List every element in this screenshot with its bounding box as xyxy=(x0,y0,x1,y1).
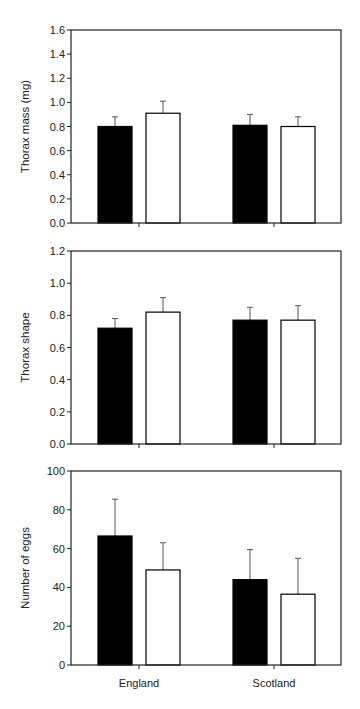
y-tick-label: 0.2 xyxy=(50,406,65,418)
y-axis-title: Thorax shape xyxy=(19,312,31,382)
y-tick-label: 1.0 xyxy=(50,96,65,108)
y-tick-label: 1.2 xyxy=(50,245,65,257)
y-tick-label: 1.2 xyxy=(50,72,65,84)
y-tick-label: 60 xyxy=(53,543,65,555)
y-axis-title: Number of eggs xyxy=(19,527,31,609)
y-tick-label: 1.4 xyxy=(50,48,65,60)
chart-panel-3: 020406080100Number of eggsEnglandScotlan… xyxy=(19,465,341,689)
y-tick-label: 0.2 xyxy=(50,193,65,205)
y-tick-label: 0.8 xyxy=(50,309,65,321)
bar-england-open xyxy=(146,113,180,223)
y-tick-label: 20 xyxy=(53,620,65,632)
x-category-label: England xyxy=(119,677,159,689)
y-tick-label: 0.6 xyxy=(50,342,65,354)
bar-scotland-open xyxy=(281,320,315,444)
y-tick-label: 1.0 xyxy=(50,277,65,289)
bar-england-open xyxy=(146,312,180,444)
bar-scotland-filled xyxy=(233,125,267,223)
bar-england-filled xyxy=(98,328,132,444)
y-tick-label: 0.4 xyxy=(50,374,65,386)
y-tick-label: 0.8 xyxy=(50,121,65,133)
chart-panel-2: 0.00.20.40.60.81.01.2Thorax shape xyxy=(19,245,341,450)
bar-england-filled xyxy=(98,127,132,224)
x-category-label: Scotland xyxy=(253,677,296,689)
y-tick-label: 0.0 xyxy=(50,217,65,229)
bar-scotland-filled xyxy=(233,580,267,665)
y-tick-label: 40 xyxy=(53,581,65,593)
bar-scotland-filled xyxy=(233,320,267,444)
y-tick-label: 0.0 xyxy=(50,438,65,450)
y-tick-label: 0 xyxy=(59,659,65,671)
y-tick-label: 100 xyxy=(47,465,65,477)
bar-england-open xyxy=(146,570,180,665)
y-tick-label: 80 xyxy=(53,504,65,516)
y-axis-title: Thorax mass (mg) xyxy=(19,80,31,173)
bar-england-filled xyxy=(98,536,132,665)
bar-scotland-open xyxy=(281,127,315,224)
y-tick-label: 0.6 xyxy=(50,145,65,157)
figure: 0.00.20.40.60.81.01.21.41.6Thorax mass (… xyxy=(0,0,360,709)
y-tick-label: 1.6 xyxy=(50,24,65,36)
y-tick-label: 0.4 xyxy=(50,169,65,181)
chart-panel-1: 0.00.20.40.60.81.01.21.41.6Thorax mass (… xyxy=(19,24,341,229)
bar-scotland-open xyxy=(281,594,315,665)
